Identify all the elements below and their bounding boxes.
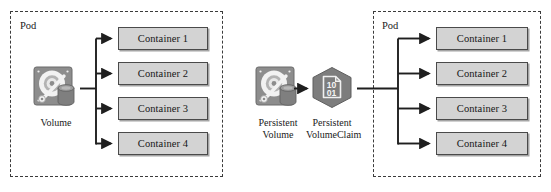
persistent-volume-caption-line1: Persistent xyxy=(250,117,306,129)
pod-label-right: Pod xyxy=(382,21,398,32)
container-label: Container 4 xyxy=(457,138,507,149)
container-box: Container 1 xyxy=(436,27,528,50)
container-box: Container 2 xyxy=(436,62,528,85)
persistent-volume-claim-caption: Persistent VolumeClaim xyxy=(306,117,358,141)
hexagon-binary-document-icon: 10 01 xyxy=(306,66,358,110)
pod-label-left: Pod xyxy=(20,21,36,32)
container-label: Container 3 xyxy=(138,103,188,114)
container-box: Container 4 xyxy=(436,132,528,155)
container-label: Container 2 xyxy=(457,68,507,79)
container-label: Container 4 xyxy=(138,138,188,149)
storage-architecture-diagram: Pod Volume xyxy=(0,0,551,192)
container-box: Container 2 xyxy=(118,62,208,85)
volume-node: Volume xyxy=(28,66,84,129)
volume-caption: Volume xyxy=(28,117,84,129)
pvc-caption-line1: Persistent xyxy=(306,117,358,129)
persistent-volume-caption: Persistent Volume xyxy=(250,117,306,141)
container-label: Container 3 xyxy=(457,103,507,114)
container-label: Container 2 xyxy=(138,68,188,79)
binary-digits-bottom: 01 xyxy=(327,88,337,98)
hard-disk-volume-icon xyxy=(28,66,84,110)
container-box: Container 1 xyxy=(118,27,208,50)
pvc-caption-line2: VolumeClaim xyxy=(306,129,358,141)
container-box: Container 3 xyxy=(436,97,528,120)
hard-disk-volume-icon xyxy=(250,66,306,110)
persistent-volume-node: Persistent Volume xyxy=(250,66,306,141)
container-label: Container 1 xyxy=(138,33,188,44)
container-box: Container 3 xyxy=(118,97,208,120)
persistent-volume-caption-line2: Volume xyxy=(250,129,306,141)
container-label: Container 1 xyxy=(457,33,507,44)
container-box: Container 4 xyxy=(118,132,208,155)
persistent-volume-claim-node: 10 01 Persistent VolumeClaim xyxy=(306,66,358,141)
